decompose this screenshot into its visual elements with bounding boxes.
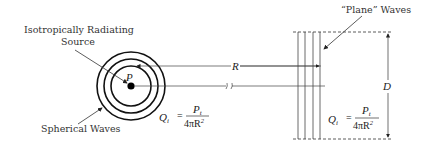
plane-waves-pointer-arrow	[324, 16, 362, 49]
aperture-label: D	[382, 80, 391, 92]
formula-right-numerator: Pt	[361, 104, 372, 118]
formula-left-denominator: 4πR2	[184, 117, 205, 129]
source-label-line2: Source	[61, 36, 95, 47]
formula-left-equals: =	[177, 110, 183, 121]
source-point	[127, 82, 134, 89]
plane-waves	[298, 32, 320, 139]
formula-left-numerator: Pt	[192, 103, 203, 117]
source-label-line1: Isotropically Radiating	[24, 24, 134, 35]
formula-right-lhs: Qi	[328, 113, 338, 127]
formula-spherical: Qi = Pt 4πR2	[159, 103, 209, 129]
distance-label: R	[231, 60, 239, 72]
spherical-waves-label: Spherical Waves	[41, 123, 121, 134]
formula-right-equals: =	[346, 112, 352, 123]
formula-left-lhs: Qi	[159, 111, 169, 125]
point-label: P	[125, 71, 133, 83]
spherical-waves-pointer-arrow	[78, 108, 102, 124]
radiation-diagram: P Isotropically Radiating Source Spheric…	[0, 0, 429, 146]
formula-plane: Qi = Pt 4πR2	[328, 104, 379, 131]
formula-right-denominator: 4πR2	[353, 119, 374, 131]
break-mark-icon	[226, 83, 232, 89]
plane-waves-label: “Plane” Waves	[341, 4, 411, 15]
